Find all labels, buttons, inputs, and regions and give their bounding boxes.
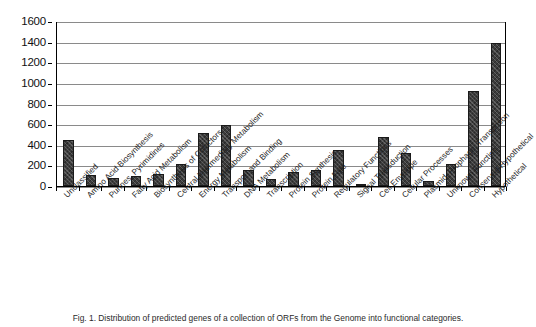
y-tick-mark-1400 (48, 43, 52, 44)
y-tick-mark-0 (48, 187, 52, 188)
y-tick-label-1000: 1000 (21, 78, 46, 90)
x-tick-mark (56, 187, 57, 191)
y-tick-mark-1000 (48, 84, 52, 85)
y-tick-label-400: 400 (27, 140, 46, 152)
y-axis: 16001400120010008006004002000 (0, 22, 52, 187)
bar (63, 140, 74, 186)
y-tick-mark-1200 (48, 63, 52, 64)
y-tick-label-600: 600 (27, 119, 46, 131)
y-tick-label-800: 800 (27, 99, 46, 111)
y-tick-mark-800 (48, 105, 52, 106)
y-tick-label-200: 200 (27, 161, 46, 173)
y-tick-mark-400 (48, 146, 52, 147)
figure-caption: Fig. 1. Distribution of predicted genes … (48, 313, 488, 327)
y-tick-label-1200: 1200 (21, 58, 46, 70)
y-tick-mark-200 (48, 166, 52, 167)
x-axis-labels: UnclassifiedAmino Acid BiosynthesisPurin… (0, 192, 522, 300)
y-tick-mark-600 (48, 125, 52, 126)
y-tick-mark-1600 (48, 22, 52, 23)
y-tick-label-1600: 1600 (21, 16, 46, 28)
y-tick-label-1400: 1400 (21, 37, 46, 49)
